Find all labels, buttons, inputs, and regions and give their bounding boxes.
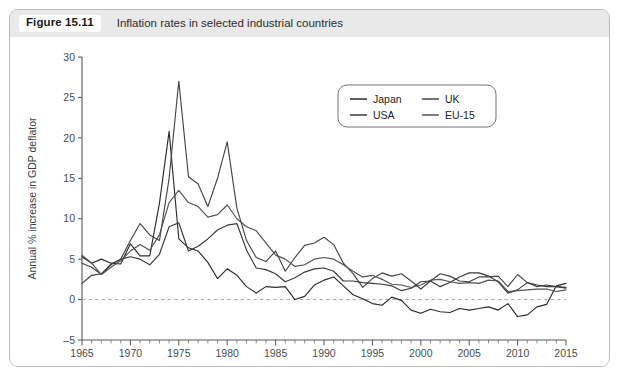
y-axis-title: Annual % increase in GDP deflator xyxy=(26,117,38,280)
svg-text:30: 30 xyxy=(63,51,75,63)
svg-text:1985: 1985 xyxy=(264,347,288,359)
svg-text:1990: 1990 xyxy=(312,347,336,359)
svg-text:0: 0 xyxy=(69,293,75,305)
svg-text:1980: 1980 xyxy=(216,347,240,359)
axis-layer: –505101520253019651970197519801985199019… xyxy=(63,51,578,359)
svg-text:2005: 2005 xyxy=(458,347,482,359)
svg-text:10: 10 xyxy=(63,212,75,224)
legend-label-japan: Japan xyxy=(373,93,402,105)
series-line-japan xyxy=(82,131,566,316)
svg-text:2000: 2000 xyxy=(409,347,433,359)
svg-text:1970: 1970 xyxy=(119,347,143,359)
svg-text:Annual % increase in GDP defla: Annual % increase in GDP deflator xyxy=(26,117,38,280)
svg-text:25: 25 xyxy=(63,91,75,103)
legend-label-eu15: EU-15 xyxy=(445,109,475,121)
chart-legend: JapanUKUSAEU-15 xyxy=(338,85,496,127)
svg-text:1995: 1995 xyxy=(361,347,385,359)
svg-text:–5: –5 xyxy=(63,334,75,346)
figure-caption-bar: Figure 15.11 Inflation rates in selected… xyxy=(10,10,609,37)
svg-text:2010: 2010 xyxy=(506,347,530,359)
legend-label-usa: USA xyxy=(373,109,395,121)
svg-text:1975: 1975 xyxy=(167,347,191,359)
chart-plot-area: –505101520253019651970197519801985199019… xyxy=(10,37,609,366)
svg-text:20: 20 xyxy=(63,132,75,144)
inflation-line-chart: –505101520253019651970197519801985199019… xyxy=(10,37,609,366)
figure-root: Figure 15.11 Inflation rates in selected… xyxy=(0,0,621,388)
svg-text:15: 15 xyxy=(63,172,75,184)
svg-text:1965: 1965 xyxy=(70,347,94,359)
figure-number-badge: Figure 15.11 xyxy=(19,15,101,32)
svg-text:2015: 2015 xyxy=(554,347,578,359)
svg-text:5: 5 xyxy=(69,253,75,265)
figure-title: Inflation rates in selected industrial c… xyxy=(117,18,343,30)
legend-label-uk: UK xyxy=(445,93,460,105)
